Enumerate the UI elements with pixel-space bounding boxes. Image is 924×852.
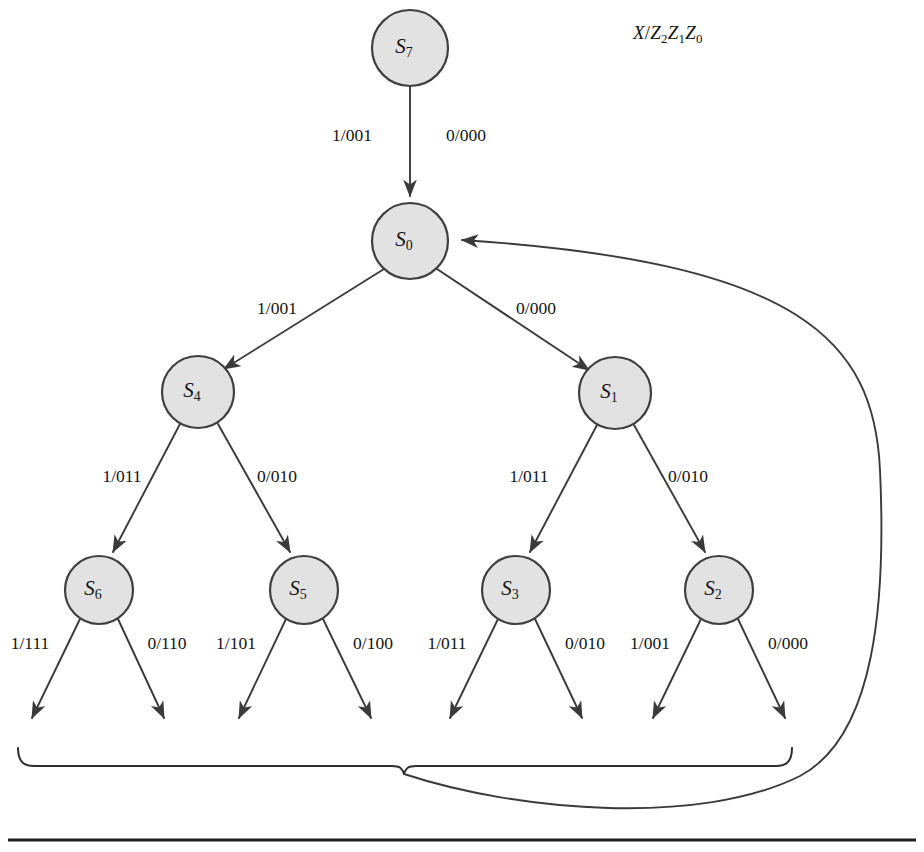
edge-label-s2-leaf-right: 0/000 xyxy=(768,633,808,653)
node-s5-subscript: 5 xyxy=(300,587,307,602)
legend-output-z0: Z0 xyxy=(685,22,702,43)
node-s7-letter: S xyxy=(395,34,406,58)
legend-input-symbol: X xyxy=(633,22,645,43)
node-s6-letter: S xyxy=(84,576,95,600)
node-s5[interactable]: S5 xyxy=(270,556,338,624)
edge-label-s6-leaf-left: 1/111 xyxy=(11,633,50,653)
node-s3-subscript: 3 xyxy=(512,587,519,602)
diagram-canvas: S7 S0 S4 S1 S6 xyxy=(0,0,924,852)
node-s7-subscript: 7 xyxy=(406,45,413,60)
leaf-collector-brace xyxy=(18,748,792,774)
node-s3-letter: S xyxy=(501,576,512,600)
edge-label-s4-s6: 1/011 xyxy=(102,466,141,486)
edge-s0-s1 xyxy=(437,269,589,370)
node-s6-subscript: 6 xyxy=(95,587,102,602)
node-s7[interactable]: S7 xyxy=(372,10,448,86)
node-s4-subscript: 4 xyxy=(194,389,201,404)
edge-label-s4-s5: 0/010 xyxy=(257,466,297,486)
edge-label-s7-s0-zero: 0/000 xyxy=(446,125,486,145)
edge-label-s3-leaf-right: 0/010 xyxy=(565,633,605,653)
edge-label-s5-leaf-right: 0/100 xyxy=(353,633,393,653)
node-s3[interactable]: S3 xyxy=(482,556,550,624)
node-s1[interactable]: S1 xyxy=(579,357,651,429)
edge-s0-s4 xyxy=(224,269,384,369)
edge-label-s0-s4: 1/001 xyxy=(257,298,297,318)
edge-label-s5-leaf-left: 1/101 xyxy=(216,633,256,653)
node-s4-letter: S xyxy=(183,378,194,402)
edge-label-s1-s2: 0/010 xyxy=(668,466,708,486)
edge-s4-s5 xyxy=(218,424,290,552)
node-s0-letter: S xyxy=(395,227,406,251)
state-diagram: X/Z2Z1Z0 xyxy=(0,0,924,852)
edge-label-s7-s0-one: 1/001 xyxy=(332,125,372,145)
node-s2-letter: S xyxy=(704,576,715,600)
node-s1-subscript: 1 xyxy=(611,390,618,405)
node-s2[interactable]: S2 xyxy=(685,556,753,624)
node-s5-letter: S xyxy=(289,576,300,600)
feedback-edge-to-s0 xyxy=(404,240,881,808)
edge-label-s6-leaf-right: 0/110 xyxy=(147,633,186,653)
edge-s1-s2 xyxy=(634,425,705,552)
edge-s1-s3 xyxy=(530,425,597,552)
legend-output-z2: Z2 xyxy=(650,22,667,43)
legend-notation: X/Z2Z1Z0 xyxy=(633,22,703,47)
edge-label-s3-leaf-left: 1/011 xyxy=(427,633,466,653)
node-s0[interactable]: S0 xyxy=(372,203,448,279)
node-s1-letter: S xyxy=(600,379,611,403)
legend-output-z1: Z1 xyxy=(668,22,685,43)
node-s0-subscript: 0 xyxy=(406,238,413,253)
edge-label-s2-leaf-left: 1/001 xyxy=(630,633,670,653)
edge-label-s1-s3: 1/011 xyxy=(509,466,548,486)
node-s4[interactable]: S4 xyxy=(162,356,234,428)
node-s2-subscript: 2 xyxy=(715,587,722,602)
node-s6[interactable]: S6 xyxy=(65,556,133,624)
edge-label-s0-s1: 0/000 xyxy=(516,298,556,318)
edge-s4-s6 xyxy=(113,424,180,552)
